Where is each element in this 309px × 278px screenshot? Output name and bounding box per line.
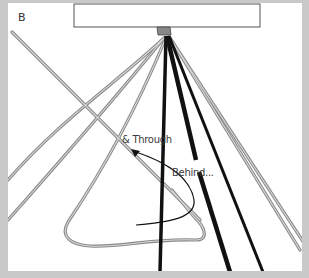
behind-annotation: Behind... bbox=[172, 167, 214, 178]
mounting-bar bbox=[74, 4, 260, 27]
panel-letter: B bbox=[18, 11, 25, 24]
diagram-panel: B & Through Behind... bbox=[8, 3, 302, 271]
through-annotation: & Through bbox=[122, 134, 172, 145]
knot-icon bbox=[157, 27, 171, 35]
dark-cords bbox=[160, 36, 263, 271]
